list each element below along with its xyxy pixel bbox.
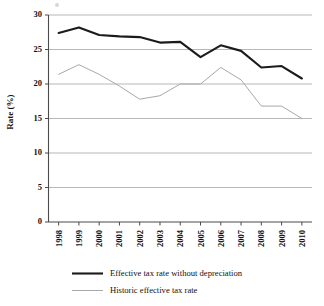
y-axis-title: Rate (%) bbox=[5, 94, 15, 129]
chart-container: 051015202530 199819992000200120022003200… bbox=[0, 0, 324, 306]
x-tick-label-2001: 2001 bbox=[114, 230, 124, 247]
x-tick-label-2005: 2005 bbox=[196, 230, 206, 247]
line-chart-figure: 051015202530 199819992000200120022003200… bbox=[0, 0, 324, 306]
x-tick-label-2010: 2010 bbox=[297, 230, 307, 247]
scan-artifact-speck bbox=[55, 3, 59, 7]
x-tick-label-1998: 1998 bbox=[54, 230, 64, 247]
x-tick-label-2003: 2003 bbox=[155, 230, 165, 247]
y-tick-label-10: 10 bbox=[34, 147, 43, 157]
x-tick-label-1999: 1999 bbox=[74, 230, 84, 247]
legend-label-historic-effective-tax-rate: Historic effective tax rate bbox=[110, 285, 198, 295]
x-tick-label-2009: 2009 bbox=[277, 230, 287, 247]
y-tick-label-5: 5 bbox=[38, 182, 42, 192]
y-tick-label-30: 30 bbox=[34, 9, 43, 19]
y-tick-label-0: 0 bbox=[38, 216, 42, 226]
x-tick-label-2006: 2006 bbox=[216, 230, 226, 247]
x-tick-label-2007: 2007 bbox=[236, 229, 246, 247]
legend-label-effective-tax-rate-without-depreciation: Effective tax rate without depreciation bbox=[110, 268, 243, 278]
x-tick-label-2000: 2000 bbox=[94, 230, 104, 247]
y-tick-label-15: 15 bbox=[34, 113, 43, 123]
x-tick-label-2008: 2008 bbox=[256, 230, 266, 247]
y-tick-label-25: 25 bbox=[34, 44, 43, 54]
x-tick-label-2004: 2004 bbox=[175, 229, 185, 247]
x-tick-label-2002: 2002 bbox=[135, 230, 145, 247]
y-tick-label-20: 20 bbox=[34, 78, 43, 88]
